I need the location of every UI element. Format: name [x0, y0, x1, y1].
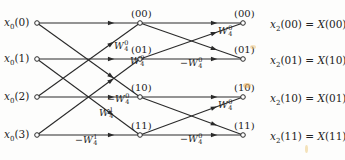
twiddle-weight-label: W04 — [218, 100, 232, 112]
arrowhead-icon — [211, 57, 217, 61]
arrowhead-icon — [211, 95, 217, 99]
result-equation: x2(10) = X(01) — [270, 93, 345, 107]
input-label: x0(2) — [4, 91, 29, 105]
middle-node-label: (10) — [131, 83, 152, 93]
result-equation: x2(00) = X(00) — [270, 19, 345, 33]
input-node — [35, 21, 40, 26]
input-node — [35, 133, 40, 138]
result-equation: x2(11) = X(11) — [270, 131, 345, 145]
output-node-label: (00) — [234, 9, 255, 19]
twiddle-weight-label: W04 — [114, 41, 128, 53]
twiddle-weight-label: W04 — [218, 26, 232, 38]
output-node — [241, 95, 246, 100]
twiddle-weight-label: −W04 — [180, 134, 202, 146]
arrowhead-icon — [107, 42, 114, 48]
output-node — [241, 57, 246, 62]
middle-node — [138, 95, 143, 100]
arrowhead-icon — [108, 57, 114, 61]
arrowhead-icon — [108, 133, 114, 137]
twiddle-weight-label: −W14 — [75, 135, 97, 147]
result-equation: x2(01) = X(10) — [270, 55, 345, 69]
output-node-label: (01) — [234, 45, 255, 55]
fft-butterfly-diagram: x0(0)x0(1)x0(2)x0(3)(00)(01)(10)(11)(00)… — [0, 0, 345, 160]
middle-node-label: (00) — [131, 9, 152, 19]
arrowhead-icon — [107, 78, 113, 84]
output-node-label: (10) — [234, 83, 255, 93]
output-node — [241, 133, 246, 138]
twiddle-weight-label: −W04 — [107, 94, 129, 106]
output-node — [241, 21, 246, 26]
arrowhead-icon — [211, 133, 217, 137]
input-node — [35, 95, 40, 100]
middle-node-label: (11) — [131, 121, 152, 131]
input-label: x0(0) — [4, 17, 29, 31]
input-node — [35, 57, 40, 62]
arrowhead-icon — [210, 32, 217, 36]
output-node-label: (11) — [234, 121, 255, 131]
twiddle-weight-label: −W04 — [180, 58, 202, 70]
input-label: x0(1) — [4, 53, 29, 67]
arrowhead-icon — [108, 21, 114, 25]
arrowhead-icon — [210, 107, 217, 111]
arrowhead-icon — [210, 46, 217, 50]
twiddle-weight-label: W04 — [130, 56, 144, 68]
middle-node — [138, 133, 143, 138]
arrowhead-icon — [211, 21, 217, 25]
input-label: x0(3) — [4, 129, 29, 143]
arrowhead-icon — [107, 73, 114, 79]
twiddle-weight-label: W14 — [99, 108, 113, 120]
arrowhead-icon — [210, 121, 217, 125]
middle-node — [138, 21, 143, 26]
